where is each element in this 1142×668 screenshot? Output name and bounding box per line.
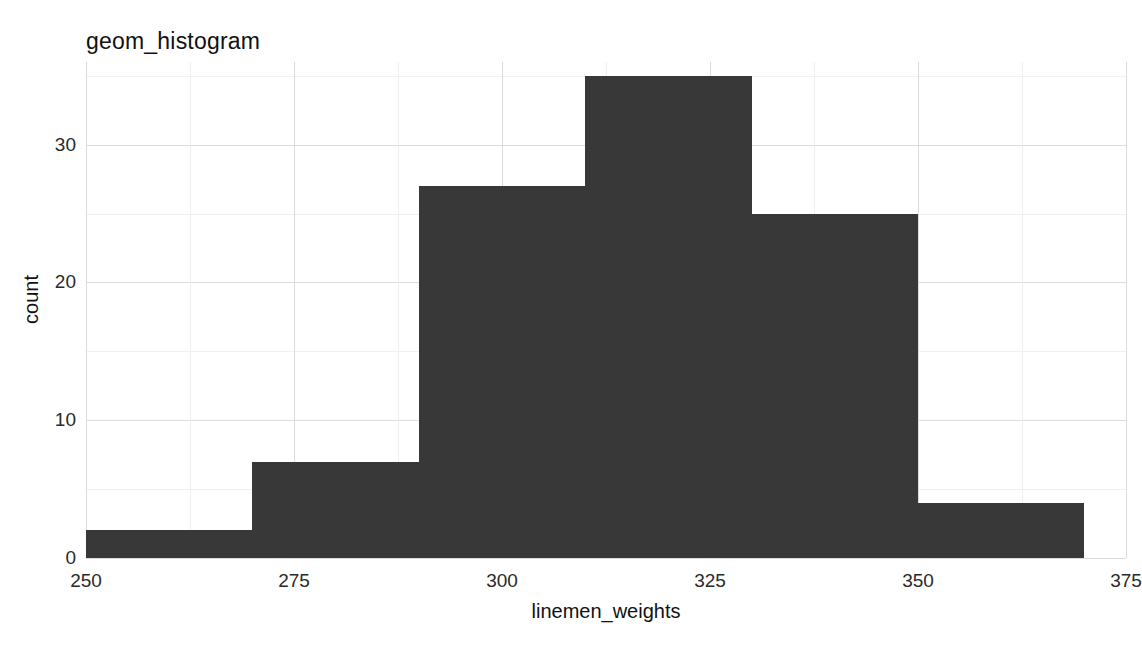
y-axis-tick-label: 30 [55, 134, 76, 156]
gridline-major-horizontal [86, 558, 1126, 559]
x-axis-tick-label: 250 [70, 570, 102, 592]
histogram-bar [918, 503, 1084, 558]
y-axis-tick-label: 0 [65, 547, 76, 569]
histogram-bar [419, 186, 585, 558]
histogram-bar [252, 462, 418, 558]
x-axis-tick-label: 275 [278, 570, 310, 592]
y-axis-tick-label: 20 [55, 271, 76, 293]
gridline-minor-vertical [1022, 62, 1023, 558]
y-axis-tick-label: 10 [55, 409, 76, 431]
y-axis-title: count [20, 255, 43, 345]
x-axis-tick-labels: 250275300325350375 [86, 570, 1126, 596]
histogram-bar [86, 530, 252, 558]
histogram-bar [585, 76, 751, 558]
x-axis-tick-label: 350 [902, 570, 934, 592]
chart-title: geom_histogram [86, 28, 260, 55]
gridline-minor-vertical [190, 62, 191, 558]
gridline-major-vertical [86, 62, 87, 558]
histogram-bar [752, 214, 918, 558]
x-axis-tick-label: 325 [694, 570, 726, 592]
x-axis-tick-label: 300 [486, 570, 518, 592]
gridline-major-vertical [918, 62, 919, 558]
x-axis-tick-label: 375 [1110, 570, 1142, 592]
gridline-major-vertical [1126, 62, 1127, 558]
plot-panel [86, 62, 1126, 558]
x-axis-title: linemen_weights [86, 600, 1126, 623]
